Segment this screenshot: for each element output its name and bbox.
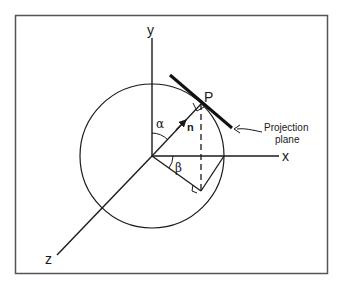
normal-n-label: n bbox=[187, 121, 194, 133]
projection-plane-line bbox=[170, 75, 232, 128]
alpha-label: α bbox=[156, 117, 164, 131]
beta-label: β bbox=[175, 161, 182, 175]
beta-arc bbox=[169, 156, 173, 168]
plane-pointer-line bbox=[237, 129, 262, 132]
projection-plane-label-line1: Projection bbox=[264, 122, 308, 133]
diagram-canvas: y x z P n α β Projection plane bbox=[0, 0, 341, 288]
alpha-arc bbox=[152, 133, 168, 140]
foot-to-x-line bbox=[201, 156, 224, 191]
z-axis bbox=[57, 156, 152, 255]
x-axis-label: x bbox=[282, 148, 289, 164]
y-axis-label: y bbox=[147, 22, 154, 38]
projection-plane-label-line2: plane bbox=[275, 134, 300, 145]
point-p-label: P bbox=[204, 89, 213, 105]
normal-arrow-icon bbox=[176, 120, 186, 130]
z-axis-label: z bbox=[45, 251, 52, 267]
